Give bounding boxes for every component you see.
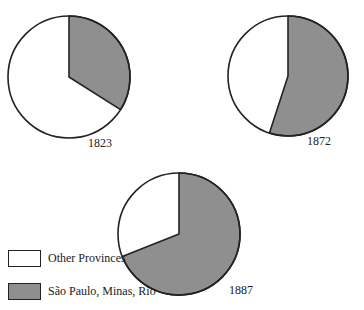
legend-item-other-provinces: Other Provinces [8,250,126,267]
legend-swatch-white [8,250,41,267]
year-label-1823: 1823 [88,136,112,151]
year-label-1872: 1872 [307,134,331,149]
year-label-1887: 1887 [229,283,253,298]
pie-1823 [8,16,130,138]
legend-item-sao-paulo-minas-rio: São Paulo, Minas, Rio [8,283,156,300]
legend-label: Other Provinces [48,251,126,266]
pie-1872 [228,16,348,136]
pie-1887 [118,173,240,295]
legend-label: São Paulo, Minas, Rio [48,284,156,299]
legend-swatch-gray [8,283,41,300]
